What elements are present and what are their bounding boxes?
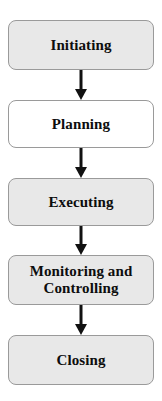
node-initiating[interactable]: Initiating	[8, 20, 154, 70]
node-executing-label: Executing	[44, 194, 117, 211]
node-planning-label: Planning	[48, 116, 114, 133]
node-initiating-label: Initiating	[46, 37, 115, 54]
node-closing[interactable]: Closing	[8, 335, 154, 385]
arrow-initiating-to-planning	[0, 68, 162, 102]
node-planning[interactable]: Planning	[8, 100, 154, 148]
node-executing[interactable]: Executing	[8, 178, 154, 226]
arrow-executing-to-monitoring	[0, 224, 162, 257]
node-monitoring-and-controlling-label: Monitoring and Controlling	[26, 263, 137, 297]
node-closing-label: Closing	[52, 352, 109, 369]
flowchart-diagram: Initiating Planning Executing Monitoring…	[0, 0, 162, 401]
node-monitoring-and-controlling[interactable]: Monitoring and Controlling	[8, 255, 154, 305]
arrow-monitoring-to-closing	[0, 303, 162, 337]
arrow-planning-to-executing	[0, 146, 162, 180]
